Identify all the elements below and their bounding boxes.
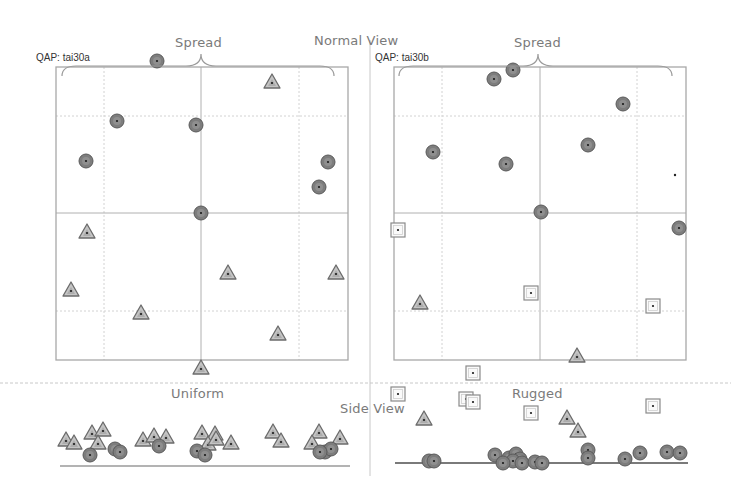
circle-marker — [110, 114, 124, 128]
circle-marker — [321, 155, 335, 169]
circle-marker — [152, 439, 166, 453]
circle-marker — [83, 448, 97, 462]
triangle-marker — [63, 282, 79, 296]
circle-marker — [581, 138, 595, 152]
circle-marker — [633, 446, 647, 460]
square-marker — [391, 387, 405, 401]
circle-marker — [581, 451, 595, 465]
rugged-label: Rugged — [512, 386, 563, 401]
circle-marker — [189, 118, 203, 132]
circle-marker — [313, 445, 327, 459]
circle-marker — [534, 205, 548, 219]
triangle-marker — [223, 435, 239, 449]
triangle-marker — [412, 295, 428, 309]
circle-marker — [660, 445, 674, 459]
circle-marker — [506, 63, 520, 77]
right-panel-qap-label: QAP: tai30b — [375, 52, 429, 63]
circle-marker — [515, 456, 529, 470]
circle-marker — [426, 145, 440, 159]
circle-marker — [427, 454, 441, 468]
triangle-marker — [270, 326, 286, 340]
triangle-marker — [79, 224, 95, 238]
triangle-marker — [220, 265, 236, 279]
circle-marker — [113, 445, 127, 459]
panel-tai30b — [391, 63, 686, 420]
left-spread-label: Spread — [175, 35, 222, 50]
circle-marker — [618, 452, 632, 466]
circle-marker — [535, 456, 549, 470]
square-marker — [524, 286, 538, 300]
dot-marker — [674, 174, 676, 176]
square-marker — [466, 395, 480, 409]
triangle-marker — [559, 410, 575, 424]
side-view-label: Side View — [340, 401, 405, 416]
circle-marker — [673, 446, 687, 460]
circle-marker — [312, 180, 326, 194]
triangle-marker — [416, 411, 432, 425]
triangle-marker — [264, 74, 280, 88]
right-spread-label: Spread — [514, 35, 561, 50]
side-view-rugged — [395, 410, 688, 470]
square-marker — [391, 223, 405, 237]
triangle-marker — [133, 305, 149, 319]
side-view-uniform — [58, 422, 350, 466]
left-panel-qap-label: QAP: tai30a — [36, 52, 90, 63]
spread-brace-right — [399, 54, 672, 76]
spread-brace-left — [62, 54, 334, 76]
circle-marker — [616, 97, 630, 111]
circle-marker — [487, 72, 501, 86]
circle-marker — [499, 157, 513, 171]
square-marker — [646, 399, 660, 413]
square-marker — [524, 406, 538, 420]
triangle-marker — [569, 348, 585, 362]
square-marker — [646, 299, 660, 313]
normal-view-label: Normal View — [314, 33, 398, 48]
diagram-canvas — [0, 0, 731, 490]
square-marker — [466, 366, 480, 380]
triangle-marker — [193, 360, 209, 374]
circle-marker — [79, 154, 93, 168]
panel-tai30a — [56, 54, 348, 374]
triangle-marker — [311, 424, 327, 438]
uniform-label: Uniform — [171, 386, 224, 401]
circle-marker — [496, 456, 510, 470]
circle-marker — [672, 221, 686, 235]
triangle-marker — [328, 265, 344, 279]
triangle-marker — [95, 422, 111, 436]
triangle-marker — [570, 423, 586, 437]
circle-marker — [198, 448, 212, 462]
circle-marker — [194, 206, 208, 220]
triangle-marker — [332, 430, 348, 444]
